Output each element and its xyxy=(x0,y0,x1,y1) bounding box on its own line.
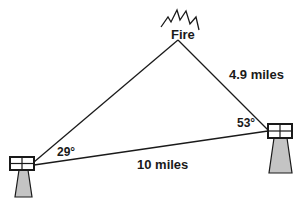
left-tower-icon xyxy=(10,157,34,197)
triangulation-diagram: Fire 4.9 miles 10 miles 29° 53° xyxy=(0,0,301,210)
diagram-graphics xyxy=(0,0,301,210)
angle-left-label: 29° xyxy=(57,146,75,158)
line-left-tower-to-fire xyxy=(34,40,178,162)
base-label: 10 miles xyxy=(137,158,188,171)
side-right-label: 4.9 miles xyxy=(229,68,284,81)
angle-right-label: 53° xyxy=(237,117,255,129)
fire-label: Fire xyxy=(171,28,195,41)
right-tower-icon xyxy=(268,124,292,173)
